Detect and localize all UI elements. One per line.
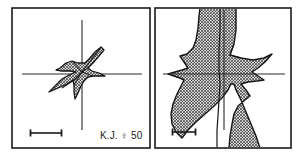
- right-panel: [155, 8, 291, 148]
- left-panel: K.J. ♀ 50: [12, 8, 150, 148]
- specimen-label: K.J. ♀ 50: [100, 130, 143, 141]
- figure-svg: K.J. ♀ 50: [0, 0, 303, 159]
- figure-container: K.J. ♀ 50: [0, 0, 303, 159]
